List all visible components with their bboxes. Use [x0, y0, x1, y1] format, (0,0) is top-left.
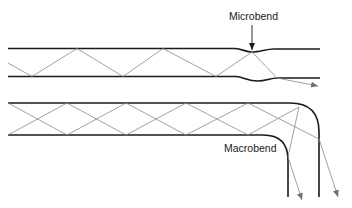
macrobend-light-ray-a — [8, 103, 319, 139]
microbend-light-ray — [8, 49, 277, 79]
macrobend-escaping-ray-arrow-outer — [319, 139, 338, 197]
microbend-fiber-bottom-wall — [8, 77, 320, 82]
macrobend-label: Macrobend — [224, 142, 277, 154]
fiber-bend-diagram — [0, 0, 352, 208]
macrobend-fiber — [8, 103, 338, 200]
microbend-fiber — [8, 25, 320, 86]
macrobend-escaping-ray-arrow-inner — [288, 157, 302, 200]
microbend-escaping-ray-arrow — [277, 78, 318, 86]
microbend-label: Microbend — [229, 10, 278, 22]
